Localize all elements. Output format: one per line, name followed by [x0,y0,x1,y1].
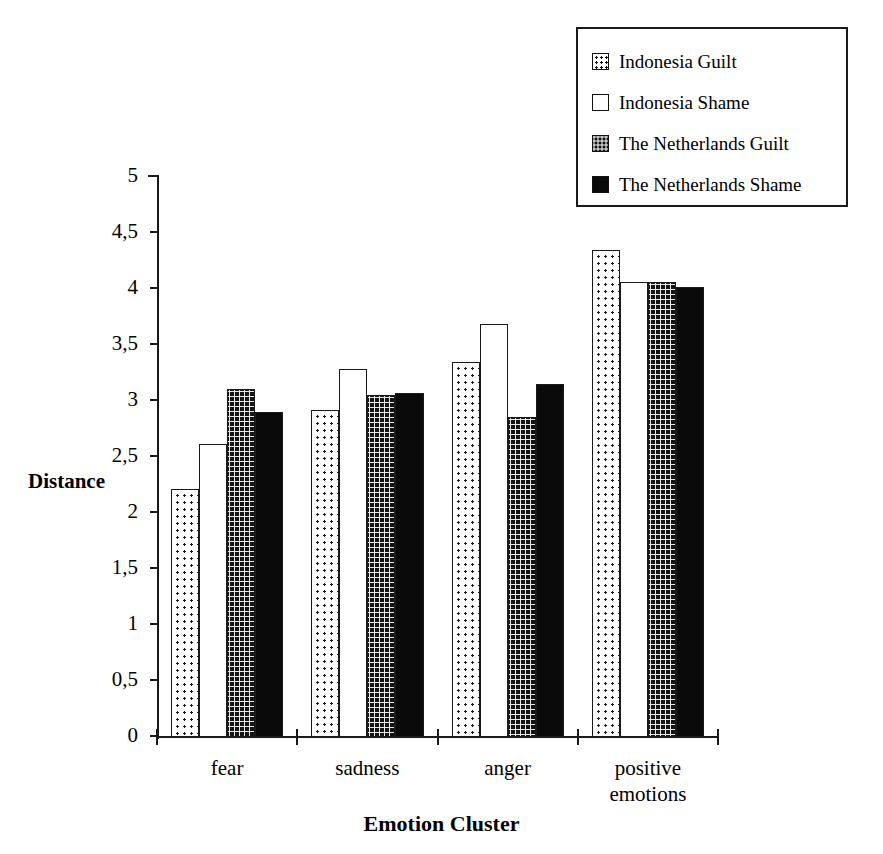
y-axis-tick-label: 2 [82,501,138,522]
legend-item-label: Indonesia Shame [619,93,749,112]
category-label-line: emotions [558,781,738,807]
y-axis-tick-label: 4,5 [82,221,138,242]
legend-item-label: The Netherlands Guilt [619,134,789,153]
bar-indonesia-shame-anger [480,324,508,737]
bar-indonesia-shame-fear [199,444,227,737]
bar-indonesia-guilt-anger [452,362,480,737]
plot-area [157,177,718,737]
legend-item: The Netherlands Guilt [592,123,846,164]
bar-indonesia-guilt-positive-emotions [592,250,620,737]
bar-indonesia-shame-positive-emotions [620,282,648,737]
y-axis-tick-label: 2,5 [82,445,138,466]
y-axis-tick-label: 4 [82,277,138,298]
category-label: positiveemotions [558,755,738,807]
y-axis-tick-label: 3 [82,389,138,410]
legend-item: Indonesia Shame [592,82,846,123]
y-axis-tick-label: 5 [82,165,138,186]
bar-indonesia-shame-sadness [339,369,367,737]
bar-the-netherlands-shame-sadness [395,393,423,737]
x-axis-title: Emotion Cluster [0,812,883,836]
bar-indonesia-guilt-fear [171,489,199,737]
bar-the-netherlands-guilt-positive-emotions [648,282,676,737]
y-axis-tick-label: 1 [82,613,138,634]
y-axis-tick-label: 0,5 [82,669,138,690]
bar-the-netherlands-shame-fear [255,412,283,737]
legend-swatch-empty-white-icon [592,94,609,111]
y-axis-title: Distance [28,470,105,492]
bar-the-netherlands-guilt-fear [227,389,255,737]
y-axis-tick-label: 3,5 [82,333,138,354]
bar-indonesia-guilt-sadness [311,410,339,737]
category-label-line: positive [558,755,738,781]
bar-the-netherlands-shame-positive-emotions [676,287,704,737]
y-axis-tick-label: 0 [82,725,138,746]
legend-item-label: Indonesia Guilt [619,52,737,71]
legend-swatch-sparse-dots-icon [592,53,609,70]
legend-item: Indonesia Guilt [592,41,846,82]
bar-the-netherlands-shame-anger [536,384,564,737]
bar-the-netherlands-guilt-sadness [367,395,395,737]
legend-swatch-dense-grid-icon [592,135,609,152]
bar-the-netherlands-guilt-anger [508,417,536,737]
y-axis-tick-label: 1,5 [82,557,138,578]
